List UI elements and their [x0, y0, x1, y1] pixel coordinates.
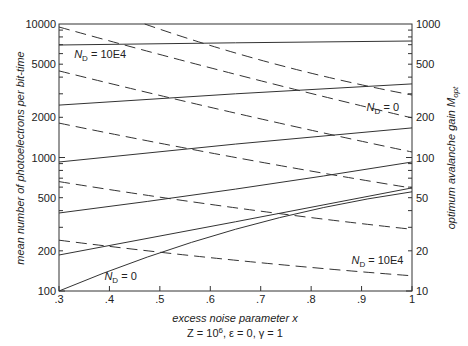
chart-subtitle: Z = 106, ε = 0, γ = 1 [187, 326, 283, 339]
y-tick-label-right: 50 [416, 192, 428, 204]
x-tick-label: .8 [307, 293, 316, 305]
x-tick-label: .5 [155, 293, 164, 305]
y-tick-label-right: 200 [416, 111, 434, 123]
gain-curve [145, 24, 412, 95]
x-tick-label: .4 [105, 293, 114, 305]
photoelectron-curve [59, 162, 412, 213]
y-tick-label-left: 100 [38, 285, 56, 297]
gain-curve [59, 27, 412, 118]
y-tick-label-left: 2000 [32, 111, 56, 123]
y-tick-label-right: 10 [416, 285, 428, 297]
y-tick-label-left: 200 [38, 245, 56, 257]
plot-curves [59, 24, 412, 291]
curve-annotation: ND = 10E4 [74, 48, 126, 63]
y-tick-label-left: 10000 [25, 18, 56, 30]
y-tick-label-left: 1000 [32, 152, 56, 164]
photoelectron-curve [59, 128, 412, 162]
annotations: ND = 10E4ND = 0ND = 0ND = 10E4 [74, 48, 403, 285]
y-tick-label-left: 500 [38, 192, 56, 204]
y-tick-label-left: 5000 [32, 58, 56, 70]
photoelectron-curve [59, 188, 412, 255]
chart: .3.4.5.6.7.8.911002005001000200050001000… [0, 0, 468, 346]
axis-ticks [59, 30, 412, 291]
y-tick-label-right: 100 [416, 152, 434, 164]
x-tick-label: .7 [256, 293, 265, 305]
x-tick-label: .6 [206, 293, 215, 305]
chart-canvas: .3.4.5.6.7.8.911002005001000200050001000… [0, 0, 468, 346]
y-axis-label-right: optimum avalanche gain Mopt [445, 86, 460, 229]
y-axis-label-left: mean number of photoelectrons per bit-ti… [14, 51, 26, 264]
photoelectron-curve [59, 84, 412, 105]
x-tick-label: 1 [409, 293, 415, 305]
gain-curve [59, 71, 412, 152]
x-axis-label: excess noise parameter x [172, 312, 298, 324]
x-tick-label: .9 [357, 293, 366, 305]
y-tick-label-right: 1000 [416, 18, 440, 30]
curve-annotation: ND = 0 [104, 270, 136, 285]
y-tick-label-right: 500 [416, 58, 434, 70]
y-tick-label-right: 20 [416, 245, 428, 257]
curve-annotation: ND = 10E4 [351, 254, 403, 269]
